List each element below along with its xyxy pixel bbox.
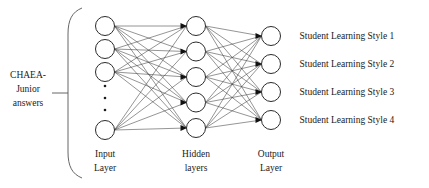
edge	[115, 72, 187, 128]
ellipsis-dot-2	[104, 97, 107, 100]
hidden-layer-caption-line2: layers	[185, 163, 208, 173]
edge	[115, 26, 187, 72]
hidden-node-3	[187, 68, 206, 87]
edge	[115, 128, 187, 130]
ellipsis-dot-3	[104, 109, 107, 112]
edge	[115, 49, 187, 103]
hidden-node-4	[187, 93, 206, 112]
edge	[206, 26, 262, 120]
edge	[206, 36, 262, 103]
ellipsis-dot-1	[104, 85, 107, 88]
input-node-1	[96, 17, 115, 36]
edge	[206, 26, 262, 64]
input-layer-ellipsis-icon	[104, 85, 107, 112]
hidden-node-5	[187, 119, 206, 138]
input-source-line-3: answers	[13, 98, 44, 108]
hidden-node-2	[187, 42, 206, 61]
edge	[115, 52, 187, 73]
hidden-layer-caption-line1: Hidden	[182, 149, 210, 159]
output-label-1: Student Learning Style 1	[300, 31, 395, 41]
arrowheads-output-layer	[256, 33, 263, 123]
edge	[115, 26, 187, 77]
input-source-line-2: Junior	[16, 84, 41, 94]
edge	[206, 36, 262, 77]
edge	[115, 26, 187, 52]
input-source-label: CHAEA- Junior answers	[10, 70, 46, 108]
edge	[206, 103, 262, 121]
network-diagram-svg: CHAEA- Junior answers Student Learning S…	[0, 0, 429, 188]
hidden-node-1	[187, 17, 206, 36]
input-source-line-1: CHAEA-	[10, 70, 46, 80]
edge	[115, 49, 187, 52]
input-layer-nodes	[96, 17, 115, 140]
output-layer-caption-line2: Layer	[260, 163, 283, 173]
edge	[206, 120, 262, 128]
edge	[206, 77, 262, 92]
output-node-4	[262, 111, 281, 130]
edge	[206, 36, 262, 52]
output-label-2: Student Learning Style 2	[300, 59, 395, 69]
output-layer-nodes	[262, 27, 281, 130]
output-node-2	[262, 55, 281, 74]
output-node-3	[262, 83, 281, 102]
input-layer-caption-line1: Input	[95, 149, 115, 159]
edges-hidden-to-output	[206, 26, 262, 128]
input-brace-icon	[68, 8, 82, 178]
edges-input-to-hidden	[115, 26, 187, 130]
edge	[115, 77, 187, 130]
output-layer-caption-line1: Output	[258, 149, 285, 159]
output-label-4: Student Learning Style 4	[300, 115, 395, 125]
input-node-4	[96, 121, 115, 140]
output-labels-group: Student Learning Style 1Student Learning…	[300, 31, 395, 125]
layer-captions: Input Layer Hidden layers Output Layer	[94, 149, 285, 173]
input-node-3	[96, 63, 115, 82]
output-node-1	[262, 27, 281, 46]
input-node-2	[96, 40, 115, 59]
neural-network-figure: CHAEA- Junior answers Student Learning S…	[0, 0, 429, 188]
output-label-3: Student Learning Style 3	[300, 87, 395, 97]
input-brace-group	[52, 8, 82, 178]
edge	[206, 26, 262, 36]
hidden-layer-nodes	[187, 17, 206, 138]
edge	[206, 64, 262, 77]
edge	[206, 64, 262, 128]
input-layer-caption-line2: Layer	[94, 163, 117, 173]
